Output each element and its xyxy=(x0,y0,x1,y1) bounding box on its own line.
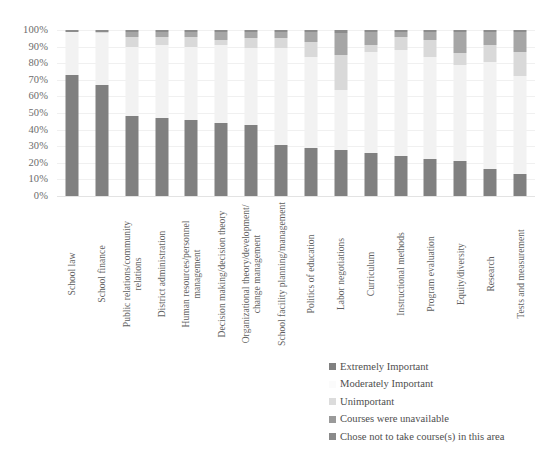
y-axis-tick-label: 100% xyxy=(23,25,48,35)
bar-segment xyxy=(245,48,258,124)
x-axis-category-label-line: Human resources/personnel xyxy=(180,199,191,349)
bar-segment xyxy=(364,32,377,45)
legend-item[interactable]: Unimportant xyxy=(329,393,541,411)
bar-stack xyxy=(155,30,168,196)
bar-segment xyxy=(125,37,138,47)
x-axis-category-label: School facility planning/management xyxy=(276,199,287,349)
bar-segment xyxy=(275,48,288,144)
bar-segment xyxy=(514,52,527,77)
bar-column xyxy=(475,30,505,196)
bar-segment xyxy=(245,32,258,39)
bar-segment xyxy=(185,120,198,196)
bar-segment xyxy=(95,33,108,84)
chart-legend: Extremely ImportantModerately ImportantU… xyxy=(329,358,541,446)
bar-column xyxy=(356,30,386,196)
bar-column xyxy=(266,30,296,196)
x-axis-category-label-line: District administration xyxy=(156,199,167,349)
x-axis-category-label: Labor negotiations xyxy=(335,199,346,349)
legend-item[interactable]: Moderately Important xyxy=(329,376,541,394)
x-axis-category-label-line: Public relations/community xyxy=(121,199,132,349)
bar-segment xyxy=(245,38,258,48)
legend-item[interactable]: Extremely Important xyxy=(329,358,541,376)
bar-segment xyxy=(215,45,228,123)
x-axis-category-label: Instructional methods xyxy=(395,199,406,349)
x-axis-category-label-line: management xyxy=(191,199,202,349)
bar-stack xyxy=(304,30,317,196)
bar-segment xyxy=(304,57,317,148)
bar-column xyxy=(57,30,87,196)
x-axis-category-label: School finance xyxy=(96,199,107,349)
x-axis-category-label: Tests and measurement xyxy=(515,199,526,349)
y-axis: 100%90%80%70%60%50%40%30%20%10%0% xyxy=(0,30,52,196)
x-axis-category-label-line: Program evaluation xyxy=(425,199,436,349)
bar-segment xyxy=(215,123,228,196)
bar-column xyxy=(445,30,475,196)
bar-segment xyxy=(514,174,527,196)
bar-segment xyxy=(484,32,497,45)
x-axis-category-label: Organizational theory/development/change… xyxy=(240,199,262,349)
bar-segment xyxy=(484,45,497,62)
x-axis-category-label-line: Equity/diversity xyxy=(455,199,466,349)
bar-segment xyxy=(304,42,317,57)
bar-segment xyxy=(304,148,317,196)
bars-layer xyxy=(57,30,535,196)
x-axis-category-label: Curriculum xyxy=(365,199,376,349)
bar-segment xyxy=(424,40,437,57)
bar-column xyxy=(326,30,356,196)
y-axis-tick-label: 60% xyxy=(28,91,48,101)
x-axis-category-label-line: Research xyxy=(485,199,496,349)
bar-segment xyxy=(454,161,467,196)
bar-stack xyxy=(364,30,377,196)
x-axis-category-label: District administration xyxy=(156,199,167,349)
x-axis-category-label-line: School law xyxy=(66,199,77,349)
bar-stack xyxy=(484,30,497,196)
x-axis-category-label-line: Labor negotiations xyxy=(335,199,346,349)
bar-column xyxy=(386,30,416,196)
bar-segment xyxy=(334,33,347,55)
bar-stack xyxy=(185,30,198,196)
bar-segment xyxy=(334,55,347,90)
bar-segment xyxy=(125,116,138,196)
bar-segment xyxy=(275,32,288,39)
bar-segment xyxy=(245,125,258,196)
bar-segment xyxy=(394,50,407,156)
bar-column xyxy=(117,30,147,196)
bar-segment xyxy=(304,32,317,42)
x-axis-line xyxy=(57,196,535,197)
x-axis-category-label-line: Tests and measurement xyxy=(515,199,526,349)
x-axis-category-label-line: Organizational theory/development/ xyxy=(240,199,251,349)
bar-segment xyxy=(275,38,288,48)
y-axis-tick-label: 40% xyxy=(28,125,48,135)
bar-segment xyxy=(394,37,407,50)
bar-stack xyxy=(275,30,288,196)
bar-stack xyxy=(394,30,407,196)
x-axis-category-label: Politics of education xyxy=(305,199,316,349)
bar-segment xyxy=(424,159,437,196)
bar-segment xyxy=(424,32,437,40)
bar-stack xyxy=(65,30,78,196)
legend-item[interactable]: Chose not to take course(s) in this area xyxy=(329,428,541,446)
bar-segment xyxy=(364,52,377,153)
bar-segment xyxy=(185,37,198,47)
x-axis-category-label: Decision making/decision theory xyxy=(216,199,227,349)
bar-segment xyxy=(275,145,288,196)
x-axis-labels: School lawSchool financePublic relations… xyxy=(57,199,535,349)
bar-stack xyxy=(245,30,258,196)
bar-segment xyxy=(215,32,228,40)
legend-item[interactable]: Courses were unavailable xyxy=(329,411,541,429)
y-axis-tick-label: 50% xyxy=(28,108,48,118)
bar-column xyxy=(147,30,177,196)
bar-segment xyxy=(334,90,347,150)
bar-segment xyxy=(334,150,347,196)
bar-column xyxy=(416,30,446,196)
legend-swatch-icon xyxy=(329,416,336,423)
stacked-bar-chart: 100%90%80%70%60%50%40%30%20%10%0% School… xyxy=(0,0,543,454)
x-axis-category-label: Program evaluation xyxy=(425,199,436,349)
x-axis-category-label-line: Curriculum xyxy=(365,199,376,349)
legend-swatch-icon xyxy=(329,433,336,440)
x-axis-category-label-line: relations xyxy=(132,199,143,349)
bar-segment xyxy=(65,75,78,196)
bar-column xyxy=(296,30,326,196)
bar-column xyxy=(505,30,535,196)
x-axis-category-label-line: School facility planning/management xyxy=(276,199,287,349)
